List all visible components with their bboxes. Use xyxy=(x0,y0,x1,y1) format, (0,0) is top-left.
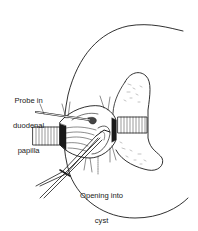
probe-label-line3: papilla xyxy=(13,147,44,155)
opening-label: Opening into cyst xyxy=(80,175,123,231)
probe-label-line2: duodenal xyxy=(13,122,44,130)
opening-label-line1: Opening into xyxy=(80,192,123,200)
opening-label-line2: cyst xyxy=(80,217,123,225)
probe-label: Probe in duodenal papilla xyxy=(13,80,44,164)
cyst-mass-left-edge xyxy=(113,82,125,118)
right-retractor xyxy=(118,117,147,133)
probe-label-line1: Probe in xyxy=(13,97,44,105)
